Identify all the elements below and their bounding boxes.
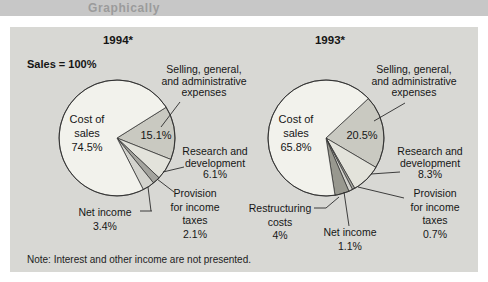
label-sga-1993: Selling, general, and administrative exp…: [371, 64, 456, 99]
label-rnd-1994: Research and development 6.1%: [182, 146, 247, 181]
leader-restructuring-1993: [326, 197, 339, 208]
label-rnd-1993: Research and development 8.3%: [397, 146, 462, 181]
label-cost-of-sales-1994: Cost of sales 74.5%: [70, 112, 105, 154]
leader-netincome-1993: [344, 192, 349, 226]
leader-netincome-1994: [148, 187, 151, 211]
label-netincome-1994: Net income 3.4%: [78, 206, 131, 233]
label-netincome-1993: Net income 1.1%: [323, 226, 376, 253]
label-sga-1994: Selling, general, and administrative exp…: [161, 64, 246, 99]
pct-sga-1993: 20.5%: [346, 129, 377, 141]
leader-provision-1993: [358, 187, 404, 198]
label-cost-of-sales-1993: Cost of sales 65.8%: [279, 112, 314, 154]
figure-note: Note: Interest and other income are not …: [27, 254, 251, 265]
label-provision-1994: Provision for income taxes 2.1%: [170, 187, 219, 241]
leader-rnd-1993: [371, 172, 400, 174]
label-provision-1993: Provision for income taxes 0.7%: [410, 187, 459, 241]
leader-sga-1993: [374, 103, 405, 121]
label-restructuring-1993: Restructuring costs 4%: [249, 202, 311, 243]
pct-sga-1994: 15.1%: [140, 129, 171, 141]
figure: Graphically 1994* 1993* Sales = 100% Sel…: [0, 0, 488, 282]
